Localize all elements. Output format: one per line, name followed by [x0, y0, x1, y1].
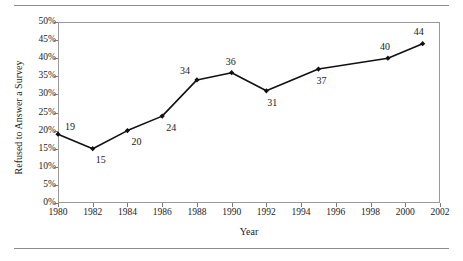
y-axis-tick-mark: [54, 40, 58, 41]
y-axis-tick-mark: [54, 185, 58, 186]
x-axis-tick-label: 1992: [257, 208, 276, 218]
x-axis-title: Year: [58, 226, 440, 237]
data-point-label: 31: [267, 98, 277, 108]
x-axis-tick-label: 1982: [83, 208, 102, 218]
y-axis-tick-mark: [54, 167, 58, 168]
data-point-label: 40: [380, 42, 390, 52]
x-axis-tick-label: 1996: [326, 208, 345, 218]
x-axis-tick-mark: [197, 203, 198, 207]
x-axis-tick-label: 1990: [222, 208, 241, 218]
x-axis-tick-mark: [266, 203, 267, 207]
y-axis-tick-mark: [54, 76, 58, 77]
data-point-label: 19: [65, 122, 75, 132]
data-point-label: 44: [414, 27, 424, 37]
y-axis-tick-mark: [54, 131, 58, 132]
y-axis-tick-mark: [54, 149, 58, 150]
x-axis-tick-label: 2002: [431, 208, 450, 218]
x-axis-tick-mark: [301, 203, 302, 207]
x-axis-tick-mark: [232, 203, 233, 207]
x-axis-tick-label: 1984: [118, 208, 137, 218]
data-point-label: 36: [226, 57, 236, 67]
data-point-label: 37: [316, 76, 326, 86]
x-axis-tick-mark: [336, 203, 337, 207]
x-axis-tick-mark: [405, 203, 406, 207]
bottom-divider-rule: [14, 248, 449, 249]
y-axis-tick-mark: [54, 22, 58, 23]
y-axis-title: Refused to Answer a Survey: [13, 38, 24, 198]
x-axis-tick-mark: [371, 203, 372, 207]
x-axis-tick-label: 1994: [292, 208, 311, 218]
x-axis-tick-mark: [127, 203, 128, 207]
y-axis-tick-mark: [54, 94, 58, 95]
x-axis-tick-mark: [440, 203, 441, 207]
top-divider-rule: [14, 5, 449, 6]
x-axis-tick-label: 2000: [396, 208, 415, 218]
y-axis-tick-label: 50%: [10, 17, 56, 27]
y-axis-tick-mark: [54, 58, 58, 59]
x-axis-tick-label: 1998: [361, 208, 380, 218]
data-point-label: 24: [166, 123, 176, 133]
x-axis-tick-mark: [93, 203, 94, 207]
x-axis-tick-mark: [58, 203, 59, 207]
x-axis-tick-label: 1980: [49, 208, 68, 218]
y-axis-tick-mark: [54, 113, 58, 114]
x-axis-tick-mark: [162, 203, 163, 207]
x-axis-tick-label: 1988: [187, 208, 206, 218]
chart-figure: 0%5%10%15%20%25%30%35%40%45%50% 19801982…: [0, 0, 463, 261]
data-point-label: 34: [180, 66, 190, 76]
data-point-label: 20: [131, 137, 141, 147]
data-point-label: 15: [96, 155, 106, 165]
x-axis-tick-label: 1986: [153, 208, 172, 218]
